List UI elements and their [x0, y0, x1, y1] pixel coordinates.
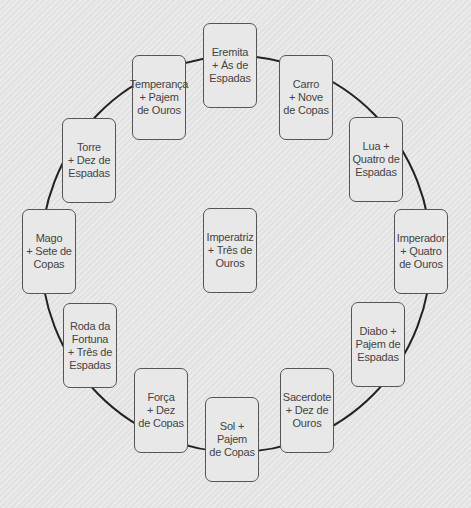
card-torre: Torre + Dez de Espadas: [62, 118, 116, 203]
card-label: Carro + Nove de Copas: [283, 78, 329, 117]
card-mago: Mago + Sete de Copas: [22, 209, 76, 294]
card-sacerdote: Sacerdote + Dez de Ouros: [280, 368, 334, 453]
card-label: Diabo + Pajem de Espadas: [356, 325, 401, 364]
card-label: Sol + Pajem de Copas: [209, 420, 255, 459]
card-lua: Lua + Quatro de Espadas: [349, 117, 403, 202]
card-label: Imperatriz + Três de Ouros: [207, 231, 254, 270]
card-roda-da-fortuna: Roda da Fortuna + Três de Espadas: [63, 303, 117, 388]
card-eremita: Eremita + Ás de Espadas: [203, 23, 257, 108]
card-sol: Sol + Pajem de Copas: [205, 397, 259, 482]
card-label: Sacerdote + Dez de Ouros: [283, 391, 331, 430]
card-carro: Carro + Nove de Copas: [279, 55, 333, 140]
card-diabo: Diabo + Pajem de Espadas: [351, 302, 405, 387]
card-temperanca: Temperança + Pajem de Ouros: [132, 55, 186, 140]
card-label: Força + Dez de Copas: [138, 391, 184, 430]
card-label: Mago + Sete de Copas: [26, 232, 72, 271]
card-label: Temperança + Pajem de Ouros: [130, 78, 189, 117]
card-label: Lua + Quatro de Espadas: [352, 140, 399, 179]
card-label: Roda da Fortuna + Três de Espadas: [68, 320, 112, 372]
tarot-spread-diagram: Imperatriz + Três de Ouros Eremita + Ás …: [0, 0, 471, 508]
card-center: Imperatriz + Três de Ouros: [203, 208, 257, 293]
card-label: Eremita + Ás de Espadas: [209, 46, 250, 85]
card-forca: Força + Dez de Copas: [134, 368, 188, 453]
card-label: Imperador + Quatro de Ouros: [397, 232, 445, 271]
card-label: Torre + Dez de Espadas: [68, 141, 111, 180]
card-imperador: Imperador + Quatro de Ouros: [394, 209, 448, 294]
